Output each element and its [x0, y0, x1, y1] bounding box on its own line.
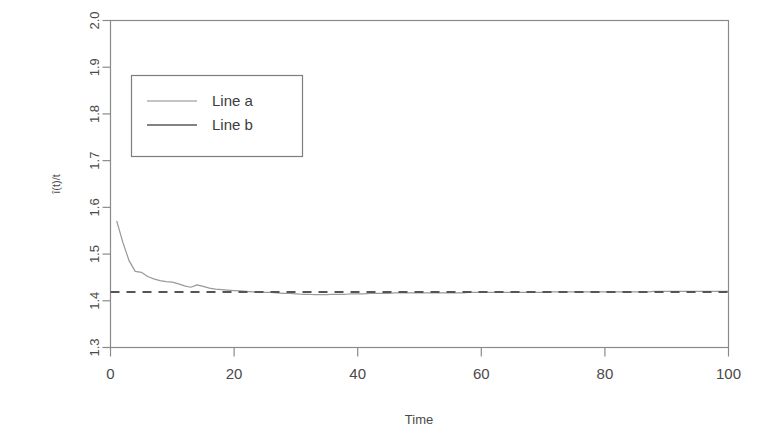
y-tick-label: 1.7 — [87, 152, 102, 170]
x-tick-label: 0 — [106, 365, 114, 382]
y-axis-title: î(t)/t — [50, 174, 62, 195]
y-tick-label: 1.4 — [87, 292, 102, 310]
y-tick-label: 1.9 — [87, 58, 102, 76]
x-tick-label: 80 — [597, 365, 614, 382]
chart-background — [0, 0, 768, 441]
x-tick-label: 40 — [349, 365, 366, 382]
x-tick-label: 60 — [473, 365, 490, 382]
line-chart: 1.31.41.51.61.71.81.92.0 020406080100 î(… — [0, 0, 768, 441]
y-tick-label: 1.3 — [87, 338, 102, 356]
x-tick-label: 100 — [716, 365, 741, 382]
y-tick-label: 2.0 — [87, 11, 102, 29]
legend-label-line-b: Line b — [212, 116, 253, 133]
y-tick-label: 1.8 — [87, 105, 102, 123]
x-axis-title: Time — [405, 412, 433, 427]
legend-label-line-a: Line a — [212, 92, 254, 109]
legend: Line a Line b — [132, 76, 303, 157]
y-tick-label: 1.5 — [87, 245, 102, 263]
x-tick-label: 20 — [226, 365, 243, 382]
chart-figure: 1.31.41.51.61.71.81.92.0 020406080100 î(… — [0, 0, 768, 441]
y-tick-label: 1.6 — [87, 198, 102, 216]
